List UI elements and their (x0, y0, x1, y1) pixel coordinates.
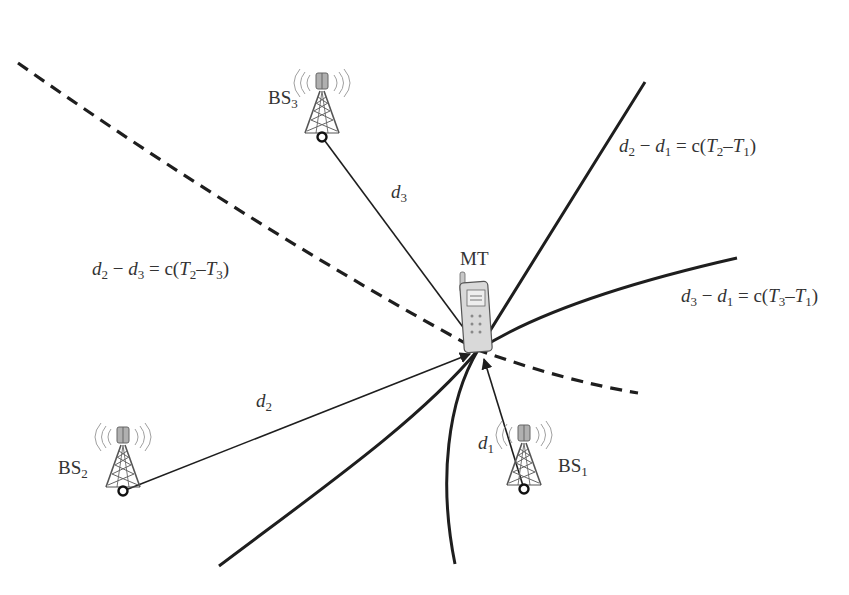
eq-term: T (179, 258, 190, 279)
bs3-label-sub: 3 (291, 96, 298, 111)
equation-d2-d3: d2 − d3 = c(T2–T3) (92, 258, 229, 280)
bs1-label: BS1 (558, 455, 588, 477)
eq-term: d (717, 285, 727, 306)
mt-label: MT (460, 248, 489, 270)
eq-op: – (723, 135, 733, 156)
equation-d2-d1: d2 − d1 = c(T2–T1) (619, 135, 756, 157)
eq-term: d (619, 135, 629, 156)
d3-main: d (391, 181, 401, 202)
d3-sub: 3 (401, 190, 408, 205)
eq-term: T (206, 258, 217, 279)
distance-label-d2: d2 (256, 390, 272, 412)
mobile-terminal-icon (460, 272, 493, 353)
distance-line-d2 (123, 354, 470, 491)
eq-sub: 3 (138, 267, 145, 282)
bs1-label-sub: 1 (581, 464, 588, 479)
tower-icon-bs1 (496, 421, 552, 494)
eq-op: – (196, 258, 206, 279)
eq-term: T (706, 135, 717, 156)
distance-label-d3: d3 (391, 181, 407, 203)
eq-term: d (128, 258, 138, 279)
eq-term: d (655, 135, 665, 156)
bs1-label-main: BS (558, 455, 581, 476)
distance-line-d3 (322, 137, 474, 342)
eq-sub: 3 (691, 294, 698, 309)
distance-label-d1: d1 (478, 432, 494, 454)
equation-d3-d1: d3 − d1 = c(T3–T1) (681, 285, 818, 307)
eq-close: ) (750, 135, 756, 156)
eq-op: − (113, 258, 124, 279)
bs2-label-main: BS (58, 457, 81, 478)
eq-close: ) (223, 258, 229, 279)
d2-sub: 2 (266, 399, 273, 414)
eq-sub: 2 (629, 144, 636, 159)
bs2-label-sub: 2 (81, 466, 88, 481)
eq-op: − (640, 135, 651, 156)
d1-main: d (478, 432, 488, 453)
bs3-label-main: BS (268, 87, 291, 108)
eq-term: T (795, 285, 806, 306)
tower-icon-bs3 (294, 69, 350, 142)
eq-op: − (702, 285, 713, 306)
eq-equals: = c( (149, 258, 179, 279)
eq-equals: = c( (738, 285, 768, 306)
d1-sub: 1 (488, 441, 495, 456)
tower-icon-bs2 (95, 423, 151, 496)
bs3-label: BS3 (268, 87, 298, 109)
eq-term: T (768, 285, 779, 306)
eq-sub: 1 (665, 144, 672, 159)
eq-term: d (681, 285, 691, 306)
eq-sub: 1 (727, 294, 734, 309)
eq-term: T (733, 135, 744, 156)
eq-op: – (785, 285, 795, 306)
eq-close: ) (812, 285, 818, 306)
eq-term: d (92, 258, 102, 279)
eq-sub: 2 (102, 267, 109, 282)
d2-main: d (256, 390, 266, 411)
bs2-label: BS2 (58, 457, 88, 479)
eq-equals: = c( (676, 135, 706, 156)
